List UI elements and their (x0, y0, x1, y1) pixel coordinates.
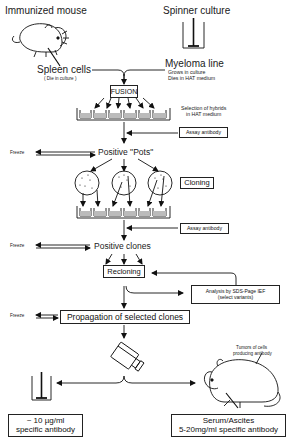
positive-pots-label: Positive "Pots" (98, 148, 153, 157)
assay-antibody-label: Assay antibody (187, 226, 222, 231)
culture-flask-icon (111, 342, 147, 375)
immunized-mouse-icon (12, 24, 69, 66)
cloning-label: Cloning (184, 179, 209, 187)
analysis-label-line2: (select variants) (218, 295, 253, 300)
assay-antibody-box-2: Assay antibody (180, 223, 229, 234)
assay-antibody-label: Assay antibody (186, 130, 221, 135)
fusion-box: FUSION (110, 85, 138, 98)
freeze-label-1: Freeze (10, 151, 24, 156)
petri-dish-icon (75, 171, 172, 195)
tumor-mouse-icon (204, 353, 280, 408)
tumor-note-line1: Tumors of cells (236, 346, 267, 351)
recloning-box: Recloning (103, 265, 145, 278)
spinner-culture-label: Spinner culture (163, 6, 230, 16)
serum-yield-box: Serum/Ascites 5-20mg/ml specific antibod… (171, 414, 286, 437)
positive-clones-label: Positive clones (94, 242, 151, 251)
spleen-cells-label: Spleen cells (37, 65, 91, 75)
myeloma-line-label: Myeloma line (165, 59, 224, 69)
cloning-box: Cloning (180, 177, 214, 189)
fusion-label: FUSION (111, 88, 137, 95)
spinner-flask-icon (183, 18, 204, 48)
propagation-label: Propagation of selected clones (67, 313, 183, 322)
analysis-box: Analysis by SDS-Page IEF (select variant… (191, 285, 280, 304)
serum-yield-line2: 5-20mg/ml specific antibody (179, 426, 278, 434)
culture-yield-box: ~ 10 µg/ml specific antibody (8, 414, 83, 437)
myeloma-note-dies: Dies in HAT medium (168, 76, 215, 81)
freeze-label-3: Freeze (10, 314, 24, 319)
culture-yield-line2: specific antibody (16, 426, 75, 434)
antibody-production-diagram: Immunized mouse Spinner culture Spleen c… (0, 0, 291, 441)
recloning-label: Recloning (107, 268, 140, 276)
spinner-flask-icon (32, 372, 51, 400)
selection-note-line2: in HAT medium (186, 112, 221, 117)
immunized-mouse-label: Immunized mouse (5, 6, 87, 16)
propagation-box: Propagation of selected clones (60, 310, 190, 324)
spleen-cells-note: ( Die in culture ) (44, 77, 76, 82)
tumor-note-line2: producing antibody (233, 352, 272, 357)
freeze-label-2: Freeze (10, 244, 24, 249)
assay-antibody-box-1: Assay antibody (179, 127, 228, 138)
